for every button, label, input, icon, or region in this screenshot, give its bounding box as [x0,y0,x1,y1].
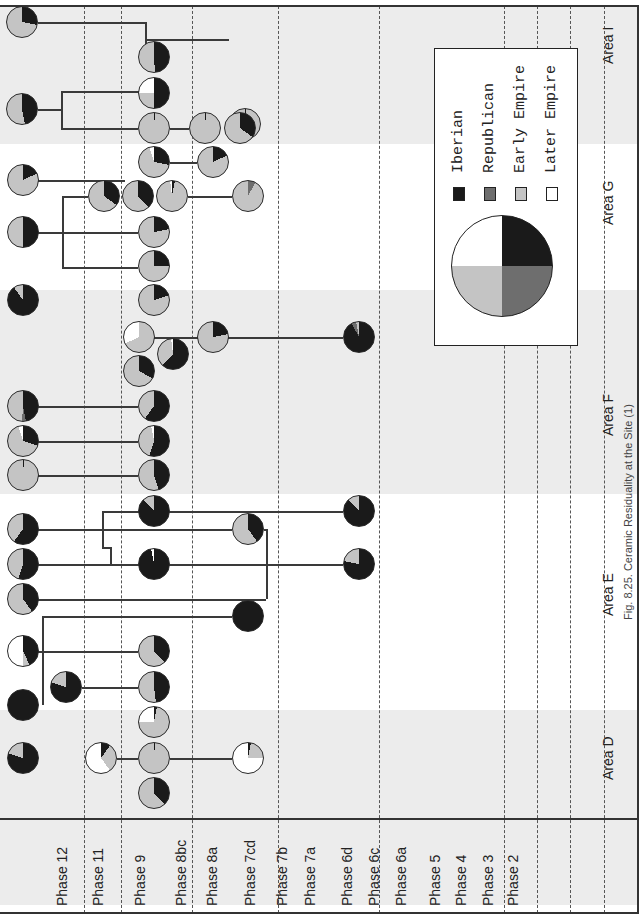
legend-swatch-early-empire [515,187,527,201]
pie-marker [6,93,38,125]
pie-marker [138,112,170,144]
connector-line [38,651,138,653]
pie-marker [7,425,39,457]
pie-marker [7,635,39,667]
legend-swatch-republican [484,187,496,201]
pie-marker [138,284,170,316]
connector-line [38,109,61,111]
top-frame-line [0,5,639,7]
pie-marker [138,459,170,491]
phase-label: Phase 11 [90,848,106,906]
pie-marker [232,600,264,632]
connector-line [38,475,138,477]
legend-sample-pie [451,215,553,317]
connector-line [38,564,343,566]
pie-marker [156,180,188,212]
phase-gridline [278,6,279,913]
connector-line [102,547,110,549]
pie-marker [343,495,375,527]
phase-label: Phase 3 [480,855,496,906]
connector-line [38,406,138,408]
pie-marker [7,548,39,580]
phase-gridline [84,6,85,913]
phase-label: Phase 8bc [173,840,189,906]
pie-marker [85,742,117,774]
connector-line [42,616,44,705]
pie-marker [138,548,170,580]
pie-marker [7,742,39,774]
phase-label: Phase 6a [393,847,409,906]
connector-line [82,687,138,689]
right-frame-line [637,5,639,913]
pie-marker [232,180,264,212]
pie-marker [224,112,256,144]
connector-line [170,128,189,130]
pie-marker [88,180,120,212]
phase-label: Phase 7a [302,847,318,906]
legend-swatch-later-empire [546,187,558,201]
connector-line [61,91,63,128]
phase-gridline [192,6,193,913]
pie-marker [7,216,39,248]
connector-line [38,529,232,531]
pie-marker [122,180,154,212]
phase-label: Phase 8a [204,847,220,906]
figure-caption: Fig. 8.25. Ceramic Residuality at the Si… [622,404,634,620]
pie-marker [138,250,170,282]
connector-line [117,758,138,760]
pie-marker [232,513,264,545]
legend-label: Iberian [450,110,467,173]
pie-marker [7,390,39,422]
pie-marker [138,671,170,703]
legend-label: Early Empire [512,65,529,173]
legend-box: IberianRepublicanEarly EmpireLater Empir… [434,48,578,346]
pie-marker [7,513,39,545]
figure-bottom-line [0,912,639,914]
connector-line [38,599,266,601]
figure-stage: IberianRepublicanEarly EmpireLater Empir… [0,0,639,922]
pie-marker [189,112,221,144]
connector-line [170,758,232,760]
pie-marker [138,425,170,457]
pie-marker [232,742,264,774]
pie-marker [50,671,82,703]
pie-marker [157,338,189,370]
pie-marker [138,742,170,774]
legend-swatch-iberian [453,187,465,201]
pie-marker [138,706,170,738]
connector-line [61,128,138,130]
plot-bottom-line [0,818,639,820]
phase-label: Phase 7cd [242,840,258,906]
pie-marker [6,6,38,38]
connector-line [126,337,343,339]
legend-label: Later Empire [543,65,560,173]
area-label: Area D [600,736,616,780]
phase-label: Phase 6c [366,848,382,906]
pie-marker [138,777,170,809]
pie-marker [138,390,170,422]
connector-line [38,441,138,443]
phase-label: Phase 7b [274,847,290,906]
phase-label: Phase 9 [132,855,148,906]
pie-marker [7,459,39,491]
pie-marker [197,321,229,353]
pie-marker [7,164,39,196]
phase-label: Phase 4 [453,855,469,906]
pie-marker [343,321,375,353]
pie-marker [138,77,170,109]
connector-line [62,267,138,269]
area-label: Area E [600,573,616,616]
connector-line [145,39,229,41]
pie-marker [7,284,39,316]
connector-line [170,162,197,164]
pie-marker [138,146,170,178]
pie-marker [7,689,39,721]
connector-line [42,616,232,618]
pie-marker [7,583,39,615]
connector-line [110,547,112,564]
connector-line [38,232,138,234]
area-label: Area I [600,27,616,64]
area-label: Area G [600,181,616,225]
pie-marker [138,495,170,527]
pie-marker [138,216,170,248]
